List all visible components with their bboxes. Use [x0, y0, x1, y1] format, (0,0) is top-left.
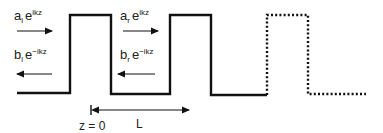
- svg-text:ble−ikz: ble−ikz: [14, 47, 47, 64]
- periodic-potential-diagram: aleikz ble−ikz areikz bre−ikz z = 0 L: [0, 0, 383, 133]
- svg-text:bre−ikz: bre−ikz: [120, 47, 154, 64]
- label-right-incoming: areikz: [120, 8, 149, 25]
- origin-label: z = 0: [79, 119, 106, 133]
- label-right-reflected: bre−ikz: [120, 47, 154, 64]
- svg-text:aleikz: aleikz: [14, 8, 42, 25]
- svg-text:areikz: areikz: [120, 8, 149, 25]
- label-left-incoming: aleikz: [14, 8, 42, 25]
- potential-profile-dotted: [267, 15, 366, 95]
- period-label: L: [136, 117, 143, 131]
- label-left-reflected: ble−ikz: [14, 47, 47, 64]
